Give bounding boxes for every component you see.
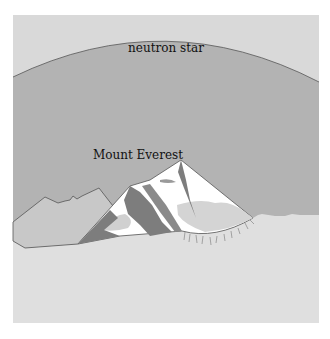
diagram-canvas: neutron star Mount Everest (0, 0, 330, 339)
neutron-star-label: neutron star (128, 41, 204, 55)
diagram-figure: neutron star Mount Everest (0, 0, 330, 339)
mount-everest-label: Mount Everest (93, 148, 183, 162)
